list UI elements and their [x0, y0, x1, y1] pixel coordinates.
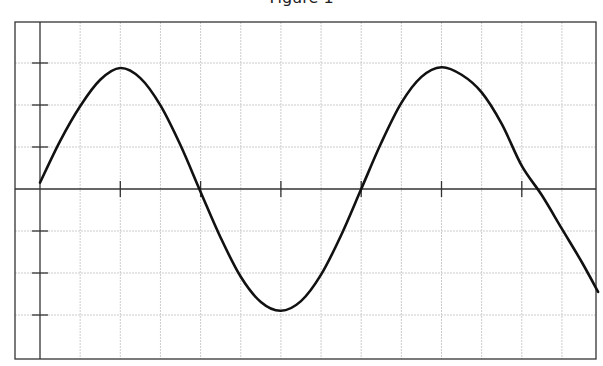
grid-lines	[15, 22, 596, 359]
line-chart	[0, 0, 603, 366]
plot-frame	[15, 22, 596, 359]
axes	[15, 22, 596, 359]
